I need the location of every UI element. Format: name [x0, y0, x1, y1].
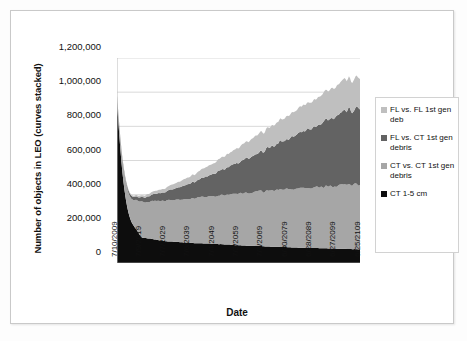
x-axis-tick-label: 7/6/2039	[182, 226, 191, 257]
x-axis-tick-label: 6/28/2089	[304, 221, 313, 257]
x-axis-tick-label: 7/9/2019	[134, 226, 143, 257]
x-axis-tick-label: 6/27/2099	[328, 221, 337, 257]
x-axis-tick-label: 6/30/2079	[280, 221, 289, 257]
chart-figure: Number of objects in LEO (curves stacked…	[0, 0, 467, 341]
x-axis-tick-labels: 7/10/20097/9/20197/7/20297/6/20397/4/204…	[0, 0, 467, 341]
x-axis-tick-label: 7/7/2029	[158, 226, 167, 257]
x-axis-tick-label: 7/3/2059	[231, 226, 240, 257]
x-axis-tick-label: 7/10/2009	[110, 221, 119, 257]
x-axis-tick-label: 6/25/2109	[353, 221, 362, 257]
x-axis-tick-label: 7/1/2069	[255, 226, 264, 257]
x-axis-tick-label: 7/4/2049	[207, 226, 216, 257]
